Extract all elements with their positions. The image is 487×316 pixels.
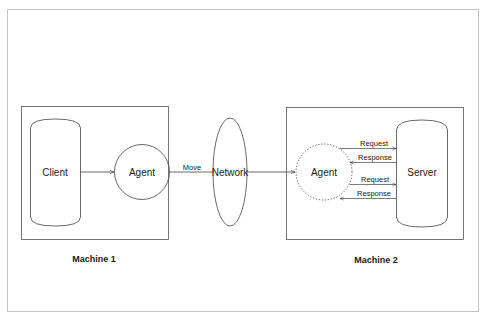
machine2-caption: Machine 2 [354,255,398,265]
response1-label: Response [358,153,392,162]
request2-label: Request [361,175,390,184]
agent2-label: Agent [311,167,337,178]
outer-frame [8,10,479,312]
server-label: Server [407,167,437,178]
client-label: Client [42,167,68,178]
machine1-caption: Machine 1 [72,254,116,264]
move-label: Move [183,163,201,172]
request1-label: Request [360,139,389,148]
diagram-canvas: Client Agent Move Network Agent Server R… [0,0,487,316]
agent1-label: Agent [129,167,155,178]
network-label: Network [212,167,250,178]
response2-label: Response [357,189,391,198]
